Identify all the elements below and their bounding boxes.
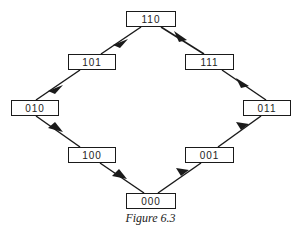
state-node-010: 010 <box>11 100 59 116</box>
edge-010-100 <box>36 116 80 147</box>
edge-101-010 <box>36 70 80 100</box>
state-node-011: 011 <box>243 100 291 116</box>
state-node-110: 110 <box>126 11 176 27</box>
figure-caption: Figure 6.3 <box>0 211 301 226</box>
edge-110-101 <box>101 27 141 54</box>
arrow-head-icon <box>112 169 127 179</box>
state-node-111: 111 <box>185 54 234 70</box>
edge-001-011 <box>218 116 261 147</box>
state-node-000: 000 <box>126 193 176 209</box>
state-node-101: 101 <box>68 54 116 70</box>
state-node-001: 001 <box>185 147 234 163</box>
state-diagram: 110 101 010 100 000 001 011 111 Figure 6… <box>0 0 301 226</box>
state-node-100: 100 <box>68 147 116 163</box>
edge-000-001 <box>158 163 201 193</box>
